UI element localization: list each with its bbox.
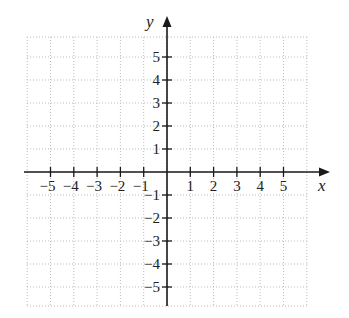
x-tick-label: −5 (40, 178, 56, 194)
y-tick-label: 3 (153, 95, 161, 111)
x-tick-label: 1 (187, 178, 195, 194)
y-tick-label: 5 (153, 49, 161, 65)
axes (24, 16, 330, 306)
y-tick-label: −3 (144, 233, 160, 249)
x-tick-label: −4 (63, 178, 79, 194)
coordinate-plane: −5−4−3−2−112345 −5−4−3−2−112345 x y (0, 0, 349, 318)
x-tick-label: 2 (210, 178, 218, 194)
y-tick-label: −4 (144, 256, 160, 272)
x-tick-label: −2 (109, 178, 125, 194)
y-axis-arrow-icon (163, 16, 172, 27)
y-tick-label: −5 (144, 279, 160, 295)
x-tick-label: 4 (256, 178, 264, 194)
x-axis-label: x (317, 176, 326, 195)
y-tick-label: 1 (153, 141, 161, 157)
y-tick-label: −1 (144, 187, 160, 203)
x-tick-label: 5 (280, 178, 288, 194)
y-axis-label: y (144, 12, 154, 31)
y-tick-label: −2 (144, 210, 160, 226)
y-tick-label: 4 (153, 72, 161, 88)
y-tick-label: 2 (153, 118, 161, 134)
x-tick-label: −3 (86, 178, 102, 194)
x-tick-label: 3 (233, 178, 241, 194)
x-axis-ticks: −5−4−3−2−112345 (40, 167, 288, 194)
